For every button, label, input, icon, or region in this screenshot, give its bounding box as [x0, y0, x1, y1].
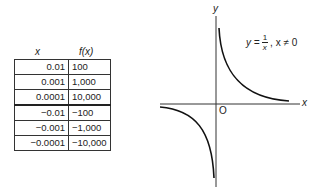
y-axis-label: y: [213, 3, 218, 14]
reciprocal-graph: [0, 0, 319, 193]
curve-negative-branch: [160, 107, 214, 178]
x-axis-label: x: [302, 97, 307, 108]
equation-label: y = 1 x , x ≠ 0: [246, 33, 297, 52]
origin-label: O: [219, 105, 227, 116]
